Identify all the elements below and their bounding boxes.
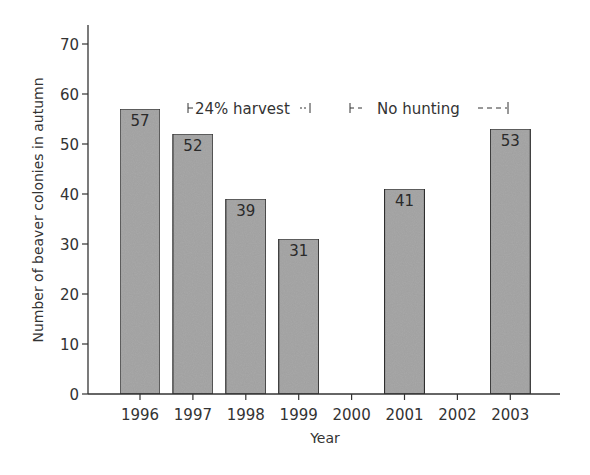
bar-2001 bbox=[385, 189, 425, 394]
x-tick-label: 2001 bbox=[385, 406, 423, 424]
x-tick-label: 1998 bbox=[227, 406, 265, 424]
y-tick-label: 60 bbox=[60, 86, 79, 104]
y-tick-label: 50 bbox=[60, 136, 79, 154]
bar-value-label: 41 bbox=[395, 192, 414, 210]
x-tick-label: 2003 bbox=[491, 406, 529, 424]
y-tick-label: 70 bbox=[60, 36, 79, 54]
bar-1996 bbox=[120, 109, 160, 394]
x-tick-label: 2000 bbox=[333, 406, 371, 424]
y-tick-label: 30 bbox=[60, 236, 79, 254]
x-tick-label: 1996 bbox=[121, 406, 159, 424]
x-tick-label: 1999 bbox=[280, 406, 318, 424]
y-tick-label: 40 bbox=[60, 186, 79, 204]
bar-chart: 575239314153 010203040506070 19961997199… bbox=[0, 0, 590, 475]
bar-value-label: 57 bbox=[130, 112, 149, 130]
x-ticks-group: 19961997199819992000200120022003 bbox=[121, 394, 529, 424]
y-ticks-group: 010203040506070 bbox=[60, 36, 88, 404]
bar-1999 bbox=[279, 239, 319, 394]
bar-1998 bbox=[226, 199, 266, 394]
y-tick-label: 20 bbox=[60, 286, 79, 304]
bar-1997 bbox=[173, 134, 213, 394]
y-tick-label: 10 bbox=[60, 336, 79, 354]
y-tick-label: 0 bbox=[69, 386, 79, 404]
bar-value-label: 52 bbox=[183, 137, 202, 155]
no-hunting-annotation: No hunting bbox=[350, 100, 508, 118]
x-tick-label: 2002 bbox=[438, 406, 476, 424]
harvest-annotation: 24% harvest bbox=[188, 100, 310, 118]
bar-2003 bbox=[490, 129, 530, 394]
no-hunting-label: No hunting bbox=[377, 100, 460, 118]
bars-group bbox=[120, 109, 530, 394]
x-tick-label: 1997 bbox=[174, 406, 212, 424]
bar-value-label: 53 bbox=[501, 132, 520, 150]
bar-value-label: 31 bbox=[289, 242, 308, 260]
harvest-label: 24% harvest bbox=[195, 100, 290, 118]
y-axis-title: Number of beaver colonies in autumn bbox=[30, 77, 46, 342]
x-axis-title: Year bbox=[309, 430, 340, 446]
bar-value-label: 39 bbox=[236, 202, 255, 220]
